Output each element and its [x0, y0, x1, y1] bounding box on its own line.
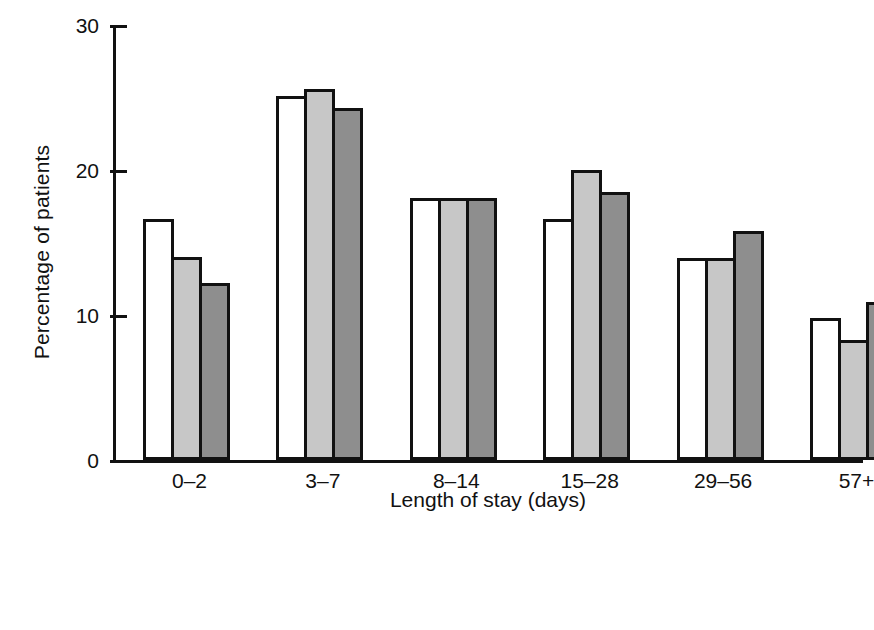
bar-1975-8-14: [466, 198, 497, 460]
bar-1975-3-7: [332, 108, 363, 460]
bar-group-3-7: [276, 25, 360, 460]
y-tick-label: 10: [39, 305, 99, 326]
y-tick-30: 30: [110, 25, 127, 28]
bar-1973-15-28: [543, 219, 574, 460]
y-tick-label: 20: [39, 160, 99, 181]
bar-1973-57+: [810, 318, 841, 460]
chart-legend: Admissions Number 197355519745341975595: [0, 524, 874, 619]
bar-chart-figure: Percentage of patients 0102030 0–23–78–1…: [0, 0, 874, 630]
bar-1974-0-2: [171, 257, 202, 460]
x-axis-line: [113, 460, 863, 463]
bar-1973-8-14: [410, 198, 441, 460]
bar-group-8-14: [410, 25, 494, 460]
bar-1974-15-28: [571, 170, 602, 460]
bar-group-0-2: [143, 25, 227, 460]
bar-1974-8-14: [438, 198, 469, 460]
bar-group-15-28: [543, 25, 627, 460]
bar-1973-3-7: [276, 96, 307, 460]
y-tick-label: 0: [39, 450, 99, 471]
bar-1973-0-2: [143, 219, 174, 460]
y-axis-title: Percentage of patients: [30, 92, 54, 412]
bar-group-29-56: [677, 25, 761, 460]
bar-1973-29-56: [677, 258, 708, 460]
bar-1974-29-56: [705, 258, 736, 460]
y-tick-20: 20: [110, 170, 127, 173]
x-axis-title: Length of stay (days): [113, 488, 863, 512]
y-axis-line: [113, 25, 116, 460]
y-tick-10: 10: [110, 315, 127, 318]
bar-group-57+: [810, 25, 874, 460]
plot-area: 0102030 0–23–78–1415–2829–5657+: [113, 25, 863, 460]
bar-1975-29-56: [733, 231, 764, 460]
bar-1974-57+: [838, 340, 869, 460]
y-tick-label: 30: [39, 15, 99, 36]
bar-1975-0-2: [199, 283, 230, 460]
bar-1975-15-28: [599, 192, 630, 460]
bar-1974-3-7: [304, 89, 335, 460]
y-tick-0: 0: [110, 460, 127, 463]
